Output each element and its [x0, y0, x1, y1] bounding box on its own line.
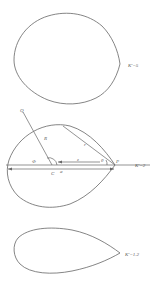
- label-k5: K'=5: [127, 63, 139, 68]
- z-arrow-icon: [58, 161, 62, 164]
- diagram-canvas: K'=5 Q R Φ r z̄ θ P C a K'=2 K'=1.2: [0, 0, 155, 289]
- label-R: R: [43, 136, 47, 141]
- label-a: a: [60, 169, 63, 174]
- label-P: P: [115, 159, 119, 164]
- label-phi: Φ: [32, 159, 36, 164]
- label-r: r: [84, 142, 86, 147]
- label-k1-2: K'=1.2: [124, 252, 140, 257]
- line-r: [63, 126, 115, 165]
- curve-k1-2: [14, 228, 120, 273]
- label-Q: Q: [20, 108, 24, 113]
- curve-k5: [14, 13, 120, 104]
- arrow-left-icon: [8, 168, 12, 171]
- line-CQ: [23, 112, 52, 165]
- label-theta: θ: [101, 158, 104, 163]
- curve-k2: [7, 125, 115, 208]
- label-z: z̄: [76, 157, 80, 162]
- arrow-right-icon: [110, 168, 114, 171]
- theta-arc: [106, 160, 107, 165]
- label-C: C: [51, 171, 55, 176]
- label-k2: K'=2: [134, 163, 146, 168]
